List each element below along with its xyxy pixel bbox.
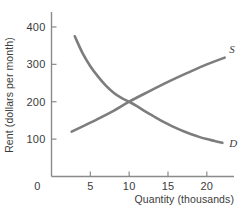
x-axis-title: Quantity (thousands) xyxy=(135,193,234,205)
y-tick-label: 200 xyxy=(27,96,46,108)
x-tick-group xyxy=(90,172,206,177)
x-tick-label: 20 xyxy=(200,180,213,192)
x-axis: 05101520 xyxy=(34,172,234,192)
supply-curve xyxy=(72,58,225,132)
y-axis: 100200300400 xyxy=(27,12,57,177)
supply-curve-label: S xyxy=(229,43,235,55)
y-tick-label-group: 100200300400 xyxy=(27,21,46,145)
x-tick-label-group: 05101520 xyxy=(34,180,213,192)
supply-demand-chart: 100200300400 05101520 D S Quantity (thou… xyxy=(0,0,245,215)
demand-curve xyxy=(75,36,223,143)
y-axis-title: Rent (dollars per month) xyxy=(3,37,15,153)
y-tick-label: 100 xyxy=(27,133,46,145)
demand-curve-label: D xyxy=(228,137,237,149)
y-tick-group xyxy=(52,27,57,139)
y-tick-label: 300 xyxy=(27,58,46,70)
x-tick-label: 0 xyxy=(34,180,40,192)
x-tick-label: 5 xyxy=(87,180,93,192)
chart-canvas: 100200300400 05101520 D S Quantity (thou… xyxy=(0,0,245,215)
x-tick-label: 10 xyxy=(123,180,136,192)
y-tick-label: 400 xyxy=(27,21,46,33)
x-tick-label: 15 xyxy=(162,180,175,192)
